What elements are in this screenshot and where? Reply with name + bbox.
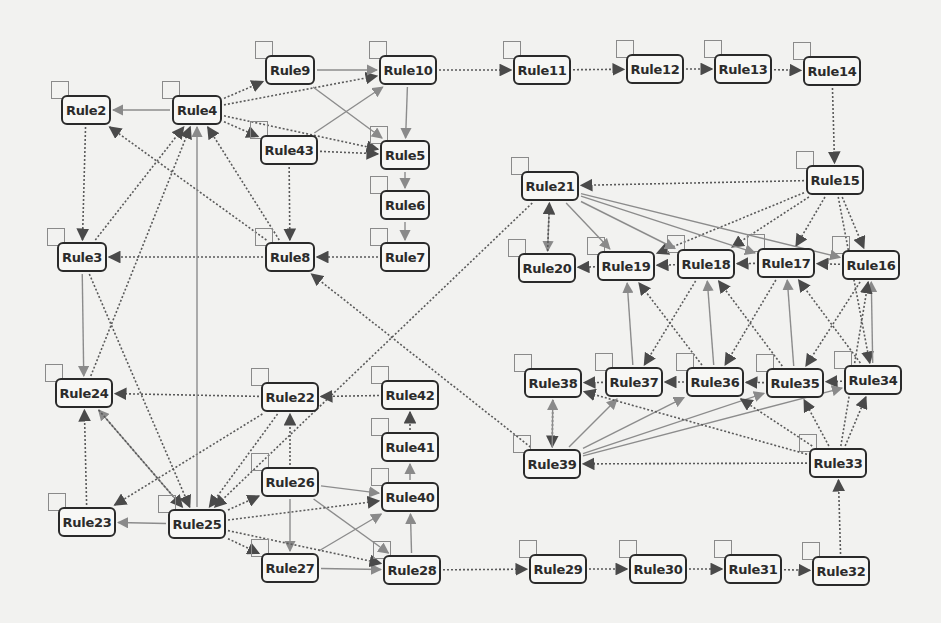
graph-node-rule15[interactable]: Rule15 bbox=[806, 165, 864, 195]
graph-node-rule40[interactable]: Rule40 bbox=[381, 482, 439, 512]
graph-node-rule13[interactable]: Rule13 bbox=[714, 54, 772, 84]
graph-node-rule37[interactable]: Rule37 bbox=[605, 367, 663, 397]
graph-node-rule16[interactable]: Rule16 bbox=[842, 250, 900, 280]
edge-rule25-to-rule23 bbox=[118, 523, 166, 524]
edge-rule34-to-rule16 bbox=[871, 282, 872, 363]
graph-node-rule27[interactable]: Rule27 bbox=[261, 553, 319, 583]
edge-rule10-to-rule5 bbox=[406, 87, 408, 138]
edge-rule31-to-rule32 bbox=[784, 570, 810, 571]
edge-layer bbox=[0, 0, 941, 623]
edge-rule39-to-rule8 bbox=[312, 274, 531, 447]
edge-rule28-to-rule40 bbox=[410, 514, 411, 553]
edge-rule15-to-rule21 bbox=[581, 181, 804, 186]
edge-rule22-to-rule24 bbox=[115, 394, 259, 397]
graph-node-rule41[interactable]: Rule41 bbox=[381, 432, 439, 462]
graph-node-rule39[interactable]: Rule39 bbox=[523, 449, 581, 479]
graph-node-rule3[interactable]: Rule3 bbox=[57, 242, 107, 272]
graph-node-rule5[interactable]: Rule5 bbox=[380, 140, 430, 170]
graph-node-rule11[interactable]: Rule11 bbox=[513, 55, 571, 85]
edge-rule8-to-rule2 bbox=[110, 127, 267, 240]
graph-node-rule6[interactable]: Rule6 bbox=[380, 190, 430, 220]
edge-rule4-to-rule9 bbox=[224, 82, 263, 99]
edge-rule3-to-rule4 bbox=[95, 127, 183, 240]
edge-rule25-to-rule40 bbox=[228, 501, 379, 520]
graph-node-rule43[interactable]: Rule43 bbox=[260, 135, 318, 165]
graph-node-rule9[interactable]: Rule9 bbox=[265, 55, 315, 85]
edge-rule33-to-rule38 bbox=[584, 392, 807, 455]
graph-node-rule21[interactable]: Rule21 bbox=[521, 171, 579, 201]
graph-node-rule38[interactable]: Rule38 bbox=[524, 368, 582, 398]
graph-node-rule4[interactable]: Rule4 bbox=[172, 95, 222, 125]
graph-node-rule24[interactable]: Rule24 bbox=[55, 378, 113, 408]
edge-rule15-to-rule17 bbox=[796, 197, 825, 246]
graph-node-rule7[interactable]: Rule7 bbox=[380, 242, 430, 272]
edge-rule35-to-rule17 bbox=[787, 280, 793, 366]
edge-rule13-to-rule14 bbox=[774, 70, 801, 71]
graph-node-rule35[interactable]: Rule35 bbox=[766, 368, 824, 398]
edge-rule43-to-rule8 bbox=[289, 167, 290, 240]
edge-rule39-to-rule37 bbox=[569, 399, 617, 447]
edge-rule27-to-rule28 bbox=[321, 569, 381, 570]
edge-rule34-to-rule35 bbox=[826, 381, 842, 382]
edge-rule17-to-rule36 bbox=[725, 280, 776, 365]
graph-node-rule8[interactable]: Rule8 bbox=[265, 242, 315, 272]
graph-node-rule25[interactable]: Rule25 bbox=[168, 509, 226, 539]
graph-node-rule29[interactable]: Rule29 bbox=[529, 554, 587, 584]
graph-node-rule22[interactable]: Rule22 bbox=[261, 382, 319, 412]
edge-rule26-to-rule40 bbox=[321, 486, 379, 493]
edge-rule3-to-rule24 bbox=[82, 274, 84, 376]
edge-rule42-to-rule22 bbox=[321, 396, 379, 397]
edge-rule23-to-rule24 bbox=[84, 410, 86, 505]
graph-node-rule36[interactable]: Rule36 bbox=[686, 367, 744, 397]
graph-node-rule10[interactable]: Rule10 bbox=[379, 55, 437, 85]
edge-rule25-to-rule26 bbox=[228, 496, 259, 510]
edge-rule36-to-rule18 bbox=[707, 281, 713, 365]
graph-node-rule20[interactable]: Rule20 bbox=[518, 253, 576, 283]
graph-node-rule18[interactable]: Rule18 bbox=[677, 249, 735, 279]
graph-node-rule14[interactable]: Rule14 bbox=[803, 56, 861, 86]
graph-node-rule26[interactable]: Rule26 bbox=[261, 467, 319, 497]
graph-node-rule33[interactable]: Rule33 bbox=[809, 448, 867, 478]
edge-rule43-to-rule5 bbox=[320, 151, 378, 154]
graph-node-rule30[interactable]: Rule30 bbox=[629, 554, 687, 584]
edge-rule15-to-rule34 bbox=[838, 197, 870, 363]
graph-node-rule17[interactable]: Rule17 bbox=[757, 248, 815, 278]
edge-rule22-to-rule23 bbox=[115, 414, 263, 505]
rule-graph-canvas: Rule2Rule4Rule9Rule10Rule43Rule5Rule6Rul… bbox=[0, 0, 941, 623]
edge-rule27-to-rule40 bbox=[319, 514, 382, 551]
graph-node-rule32[interactable]: Rule32 bbox=[812, 556, 870, 586]
edge-rule2-to-rule3 bbox=[82, 127, 85, 240]
graph-node-rule42[interactable]: Rule42 bbox=[381, 380, 439, 410]
graph-node-rule28[interactable]: Rule28 bbox=[383, 555, 441, 585]
graph-node-rule19[interactable]: Rule19 bbox=[597, 251, 655, 281]
edge-rule37-to-rule19 bbox=[627, 283, 633, 365]
graph-node-rule23[interactable]: Rule23 bbox=[58, 507, 116, 537]
graph-node-rule34[interactable]: Rule34 bbox=[844, 365, 902, 395]
graph-node-rule12[interactable]: Rule12 bbox=[626, 54, 684, 84]
edge-rule16-to-rule17 bbox=[817, 264, 840, 265]
edge-rule33-to-rule34 bbox=[845, 397, 866, 446]
edge-rule14-to-rule15 bbox=[832, 88, 834, 163]
edge-rule33-to-rule39 bbox=[583, 463, 807, 464]
edge-rule32-to-rule33 bbox=[838, 480, 840, 554]
edge-rule39-to-rule38 bbox=[552, 400, 553, 447]
edge-rule28-to-rule29 bbox=[443, 569, 527, 570]
edge-rule15-to-rule18 bbox=[732, 197, 809, 247]
graph-node-rule31[interactable]: Rule31 bbox=[724, 554, 782, 584]
graph-node-rule2[interactable]: Rule2 bbox=[61, 95, 111, 125]
